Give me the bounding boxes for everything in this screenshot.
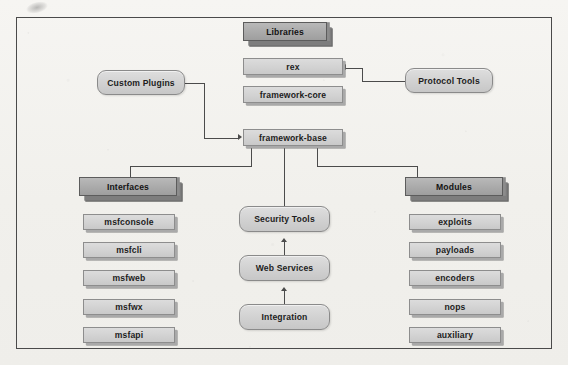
- node-label: Web Services: [256, 263, 314, 273]
- edge-modules-v1: [417, 166, 418, 178]
- edge-webservices-arrowhead-icon: [281, 238, 287, 242]
- edge-protocol-h2: [346, 68, 363, 69]
- node-libraries-header[interactable]: Libraries: [243, 22, 327, 41]
- diagram-frame: Libraries rex framework-core framework-b…: [16, 17, 552, 349]
- edge-plugins-h1: [185, 83, 205, 84]
- node-label: framework-core: [260, 90, 327, 100]
- node-label: rex: [286, 62, 299, 72]
- edge-plugins-arrowhead-icon: [238, 134, 242, 140]
- edge-plugins-h2: [204, 138, 239, 139]
- edge-security-v: [284, 146, 285, 206]
- node-label: encoders: [435, 273, 474, 283]
- node-rex[interactable]: rex: [243, 58, 343, 75]
- node-label: msfwx: [115, 302, 143, 312]
- node-framework-base[interactable]: framework-base: [243, 129, 343, 146]
- node-label: msfapi: [115, 330, 144, 340]
- scanned-page: Libraries rex framework-core framework-b…: [0, 0, 568, 365]
- node-label: Integration: [261, 312, 307, 322]
- node-msfconsole[interactable]: msfconsole: [83, 214, 175, 230]
- edge-interfaces-v2: [251, 146, 252, 166]
- node-label: Protocol Tools: [418, 76, 480, 86]
- node-label: nops: [444, 302, 465, 312]
- node-msfapi[interactable]: msfapi: [83, 327, 175, 343]
- node-interfaces-header[interactable]: Interfaces: [79, 177, 177, 196]
- edge-interfaces-h: [130, 166, 252, 167]
- node-label: payloads: [436, 245, 474, 255]
- page-smudge-mark: [25, 0, 49, 15]
- node-custom-plugins[interactable]: Custom Plugins: [97, 70, 185, 95]
- node-label: auxiliary: [437, 330, 473, 340]
- edge-modules-h: [317, 166, 418, 167]
- edge-interfaces-v1: [130, 166, 131, 178]
- edge-protocol-v: [362, 68, 363, 82]
- edge-integration-arrowhead-icon: [281, 287, 287, 291]
- node-msfcli[interactable]: msfcli: [83, 242, 175, 258]
- node-payloads[interactable]: payloads: [409, 242, 501, 258]
- node-msfwx[interactable]: msfwx: [83, 299, 175, 315]
- node-security-tools[interactable]: Security Tools: [239, 206, 330, 232]
- node-label: msfcli: [116, 245, 142, 255]
- node-label: msfweb: [113, 273, 146, 283]
- edge-protocol-h1: [362, 81, 405, 82]
- node-web-services[interactable]: Web Services: [239, 255, 330, 281]
- node-exploits[interactable]: exploits: [409, 214, 501, 230]
- node-label: Custom Plugins: [107, 78, 175, 88]
- node-label: Libraries: [266, 27, 304, 37]
- node-label: exploits: [438, 217, 472, 227]
- node-modules-header[interactable]: Modules: [405, 177, 503, 196]
- node-encoders[interactable]: encoders: [409, 270, 501, 286]
- edge-plugins-v: [204, 83, 205, 139]
- node-integration[interactable]: Integration: [239, 304, 330, 330]
- node-label: msfconsole: [104, 217, 153, 227]
- node-label: framework-base: [259, 133, 327, 143]
- edge-modules-v2: [317, 146, 318, 166]
- node-label: Interfaces: [107, 182, 149, 192]
- node-msfweb[interactable]: msfweb: [83, 270, 175, 286]
- node-framework-core[interactable]: framework-core: [243, 86, 343, 103]
- node-auxiliary[interactable]: auxiliary: [409, 327, 501, 343]
- node-nops[interactable]: nops: [409, 299, 501, 315]
- node-label: Modules: [436, 182, 472, 192]
- node-label: Security Tools: [254, 214, 315, 224]
- node-protocol-tools[interactable]: Protocol Tools: [405, 68, 493, 93]
